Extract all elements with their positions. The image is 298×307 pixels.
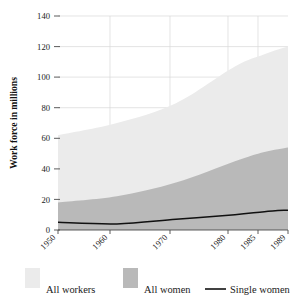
axes — [58, 230, 288, 234]
x-tick-label: 1970 — [150, 232, 169, 251]
y-axis-title: Work force in millions — [8, 77, 19, 169]
y-tick-label: 20 — [41, 195, 50, 205]
legend-swatch-all-workers — [25, 268, 40, 288]
x-tick-label: 1985 — [238, 232, 257, 251]
x-tick-label: 1950 — [38, 232, 57, 251]
x-tick-label: 1980 — [208, 232, 227, 251]
y-tick-label: 140 — [37, 11, 50, 21]
x-tick-labels: 1950 1960 1970 1980 1985 1989 — [38, 232, 287, 251]
y-tick-label: 120 — [37, 42, 50, 52]
area-chart: 140 120 100 80 60 40 20 0 1950 1960 1970… — [0, 0, 298, 307]
y-tick-labels: 140 120 100 80 60 40 20 0 — [37, 11, 50, 235]
chart-legend: All workers All women Single women — [25, 268, 291, 295]
y-tick-label: 40 — [41, 164, 50, 174]
legend-swatch-all-women — [123, 268, 138, 288]
x-tick-label: 1989 — [268, 232, 287, 251]
y-tick-label: 100 — [37, 72, 50, 82]
legend-label-single-women: Single women — [230, 284, 291, 295]
legend-label-all-women: All women — [144, 284, 191, 295]
y-tick-label: 60 — [41, 133, 50, 143]
legend-label-all-workers: All workers — [46, 284, 95, 295]
x-tick-label: 1960 — [90, 232, 109, 251]
y-tick-label: 80 — [41, 103, 50, 113]
chart-figure: 140 120 100 80 60 40 20 0 1950 1960 1970… — [0, 0, 298, 307]
